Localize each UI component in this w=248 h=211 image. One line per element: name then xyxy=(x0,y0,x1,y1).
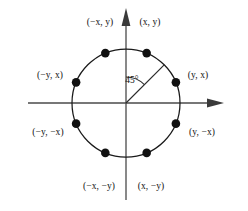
y-axis xyxy=(122,8,131,200)
symmetry-point-dot xyxy=(142,149,151,158)
symmetry-point-dot xyxy=(101,149,110,158)
point-label-p-negx-negy: (−x, −y) xyxy=(83,181,115,192)
symmetry-point-dot xyxy=(72,119,81,128)
angle-label: 45° xyxy=(125,75,138,86)
point-label-p-x-y: (x, y) xyxy=(139,17,160,28)
point-label-p-y-negx: (y, −x) xyxy=(189,127,215,138)
symmetry-point-dot xyxy=(101,49,110,58)
symmetry-point-dot xyxy=(172,78,181,87)
symmetry-point-dot xyxy=(172,119,181,128)
x-axis-arrowhead-icon xyxy=(207,99,224,108)
point-label-p-y-x: (y, x) xyxy=(188,70,209,81)
figure-canvas xyxy=(0,0,248,211)
point-label-p-negy-negx: (−y, −x) xyxy=(32,127,63,138)
symmetry-point-dot xyxy=(72,78,81,87)
y-axis-arrowhead-icon xyxy=(122,8,131,26)
point-label-p-negx-y: (−x, y) xyxy=(87,17,114,28)
point-label-p-negy-x: (−y, x) xyxy=(37,70,63,81)
point-label-p-x-negy: (x, −y) xyxy=(138,181,165,192)
symmetry-point-dot xyxy=(142,49,151,58)
circle-symmetry-figure: (x, y)(y, x)(y, −x)(x, −y)(−x, −y)(−y, −… xyxy=(0,0,248,211)
